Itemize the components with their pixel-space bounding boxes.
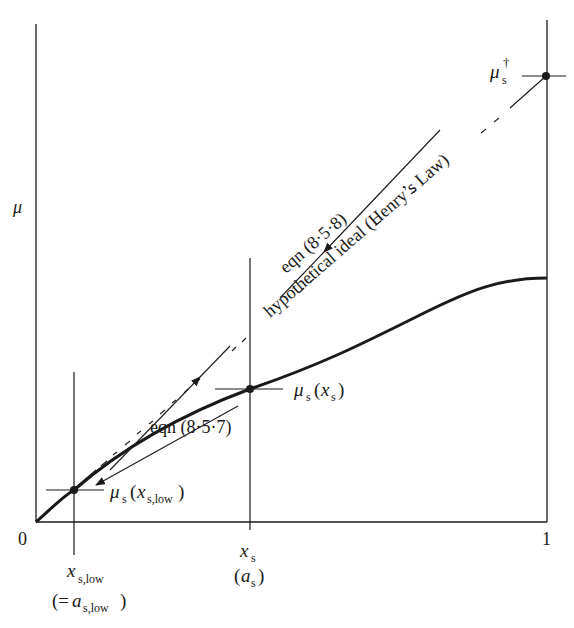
point-mu-xslow xyxy=(70,486,78,494)
svg-text:x: x xyxy=(320,379,330,400)
svg-text:†: † xyxy=(503,55,510,70)
svg-text:s: s xyxy=(122,492,127,506)
y-axis-label: μ xyxy=(12,197,22,217)
svg-text:): ) xyxy=(120,590,126,612)
svg-text:(=: (= xyxy=(52,590,69,612)
svg-text:s: s xyxy=(331,390,336,404)
mu-xslow-label: μ s ( x s,low ) xyxy=(109,481,184,506)
svg-text:): ) xyxy=(258,565,264,587)
svg-text:x: x xyxy=(239,540,249,561)
svg-text:s: s xyxy=(502,73,507,87)
svg-text:s,low: s,low xyxy=(78,572,104,586)
guide-lines xyxy=(46,76,566,555)
henrys-law-diagram: μ 0 1 μ s † μ s ( x s ) μ s ( x s,low ) … xyxy=(0,0,574,628)
x-origin-label: 0 xyxy=(18,529,27,549)
svg-text:): ) xyxy=(338,379,344,401)
xslow-tick-label: x s,low (= a s,low ) xyxy=(52,560,126,615)
svg-text:): ) xyxy=(178,481,184,503)
svg-text:μ: μ xyxy=(293,379,304,400)
svg-text:μ: μ xyxy=(489,61,500,82)
svg-text:s: s xyxy=(306,390,311,404)
svg-text:a: a xyxy=(72,590,82,611)
point-mu-xs xyxy=(246,385,254,393)
eqn-857-label: eqn (8·5·7) xyxy=(150,417,231,438)
mu-xs-label: μ s ( x s ) xyxy=(293,379,344,404)
svg-text:s,low: s,low xyxy=(147,492,173,506)
mu-dagger-label: μ s † xyxy=(489,55,510,87)
xs-tick-label: x s ( a s ) xyxy=(234,540,264,590)
svg-text:(: ( xyxy=(314,379,320,401)
svg-text:μ: μ xyxy=(109,481,120,502)
svg-text:a: a xyxy=(241,565,251,586)
svg-text:x: x xyxy=(136,481,146,502)
svg-text:s,low: s,low xyxy=(83,601,109,615)
svg-text:(: ( xyxy=(234,565,240,587)
svg-text:(: ( xyxy=(130,481,136,503)
henrys-law-label: hypothetical ideal (Henry’s Law) xyxy=(260,150,454,322)
point-mu-dagger xyxy=(542,72,550,80)
svg-text:s: s xyxy=(251,576,256,590)
svg-text:s: s xyxy=(251,551,256,565)
arrow-line-upper xyxy=(200,346,230,377)
svg-text:x: x xyxy=(66,560,76,581)
x-end-label: 1 xyxy=(542,529,551,549)
